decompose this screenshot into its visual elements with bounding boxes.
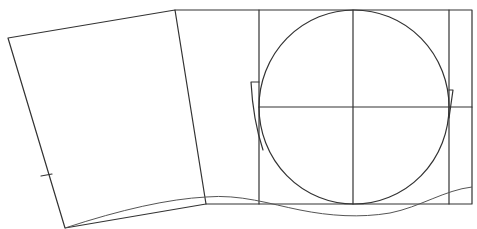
- diagram-canvas: [0, 0, 477, 229]
- tick-mark: [41, 174, 52, 176]
- left-skewed-panel: [8, 10, 206, 228]
- wavy-baseline-curve: [65, 187, 472, 228]
- left-hook-flap: [251, 82, 263, 150]
